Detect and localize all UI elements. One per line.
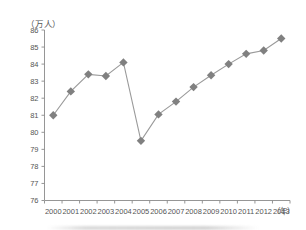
x-axis-tick-label: 2005 [133, 207, 150, 216]
x-axis-tick-label: 2011 [238, 207, 254, 216]
y-axis-tick-label: 83 [30, 77, 38, 86]
y-axis-tick-label: 82 [30, 94, 38, 103]
y-axis-tick-label: 79 [30, 145, 38, 154]
data-point-marker [154, 110, 162, 118]
x-axis-tick-label: 2004 [115, 207, 132, 216]
x-axis-tick-label: 2003 [98, 207, 115, 216]
x-axis-tick-label: 2008 [185, 207, 202, 216]
data-point-marker [49, 111, 57, 119]
chart-canvas: 7677787980818283848586 20002001200220032… [0, 0, 306, 230]
x-axis-tick-label: 2007 [168, 207, 185, 216]
series-marker-group [49, 34, 285, 145]
y-axis-tick-label: 84 [30, 60, 38, 69]
x-axis-tick-label: 2009 [203, 207, 220, 216]
x-axis-tick-label: 2000 [45, 207, 62, 216]
line-chart: （万人） 7677787980818283848586 200020012002… [0, 0, 306, 230]
data-point-marker [137, 137, 145, 145]
data-point-marker [224, 60, 232, 68]
page-edge-artifact [48, 226, 258, 230]
y-axis-tick-label: 77 [30, 179, 38, 188]
y-axis-tick-label: 76 [30, 196, 38, 205]
y-axis-tick-label: 85 [30, 43, 38, 52]
data-point-marker [242, 50, 250, 58]
x-axis-tick-label: 2006 [150, 207, 167, 216]
x-axis-tick-label: 2012 [255, 207, 272, 216]
data-point-marker [259, 46, 267, 54]
y-axis-tick-label: 78 [30, 162, 38, 171]
y-axis-tick-label: 86 [30, 26, 38, 35]
data-point-marker [277, 34, 285, 42]
x-axis-unit-label: （年） [273, 206, 294, 216]
y-axis-tick-group: 7677787980818283848586 [30, 26, 44, 206]
x-axis-tick-label: 2002 [80, 207, 97, 216]
y-axis-tick-label: 81 [30, 111, 38, 120]
x-axis-tick-label: 2001 [62, 207, 79, 216]
x-axis-label-group: 2000200120022003200420052006200720082009… [45, 207, 290, 216]
y-axis-tick-label: 80 [30, 128, 38, 137]
x-axis-tick-label: 2010 [220, 207, 237, 216]
data-point-marker [207, 71, 215, 79]
